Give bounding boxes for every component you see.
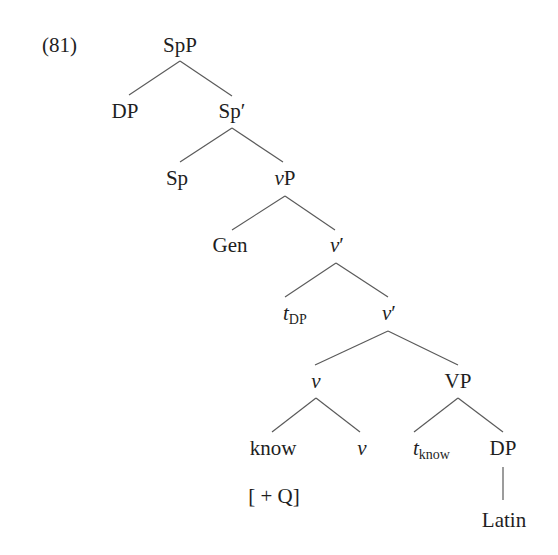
edge-vbar2-v <box>315 331 388 365</box>
edge-vbar2-VP <box>388 331 458 365</box>
node-t-dp: tDP <box>283 301 307 327</box>
node-spp: SpP <box>163 33 197 57</box>
trace-subscript: know <box>419 447 451 462</box>
node-gen: Gen <box>213 233 248 257</box>
edge-spp-spbar <box>180 61 232 96</box>
vp-p: P <box>284 166 296 190</box>
node-dp-spec: DP <box>112 99 139 123</box>
edge-spbar-vp <box>232 128 283 162</box>
feature-plus-q: [ + Q] <box>248 484 300 508</box>
edge-v-vhead <box>316 398 360 432</box>
edge-vp-vbar <box>285 196 335 230</box>
tree-edges <box>129 61 503 500</box>
node-latin: Latin <box>482 508 527 532</box>
syntax-tree: (81) SpP DP Sp′ Sp vP Gen v′ tDP v′ v VP… <box>0 0 558 555</box>
edge-spbar-sp <box>180 128 232 162</box>
node-sp-head: Sp <box>166 166 188 190</box>
example-number: (81) <box>42 33 77 57</box>
node-dp-object: DP <box>490 436 517 460</box>
node-v-bar-2: v′ <box>382 301 396 325</box>
node-v-head: v <box>357 436 367 460</box>
prime-mark: ′ <box>339 233 344 257</box>
node-little-vp: vP <box>274 166 295 190</box>
node-v-complex: v <box>311 369 321 393</box>
edge-vbar-vbar2 <box>336 263 388 297</box>
edge-vbar-tdp <box>285 263 336 297</box>
sp-bar-label: Sp <box>219 99 241 123</box>
node-big-vp: VP <box>445 369 472 393</box>
prime-mark: ′ <box>391 301 396 325</box>
edge-spp-dp <box>129 61 180 95</box>
trace-subscript: DP <box>289 312 307 327</box>
prime-mark: ′ <box>241 99 246 123</box>
node-know: know <box>250 436 298 460</box>
edge-v-know <box>272 398 316 432</box>
edge-vp-gen <box>232 196 285 230</box>
node-t-know: tknow <box>413 436 451 462</box>
node-sp-bar: Sp′ <box>219 99 246 123</box>
edge-VP-dp <box>458 398 503 432</box>
node-v-bar-1: v′ <box>330 233 344 257</box>
edge-VP-tknow <box>414 398 458 432</box>
